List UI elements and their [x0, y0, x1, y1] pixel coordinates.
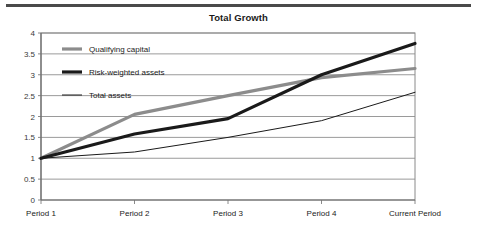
- y-tick-label: 2: [31, 113, 36, 122]
- y-tick-label: 1: [31, 154, 36, 163]
- series-line: [41, 43, 415, 158]
- legend-label: Risk-weighted assets: [89, 68, 165, 77]
- x-axis-tick-marks: [41, 200, 415, 204]
- gridlines-group: [41, 33, 415, 179]
- data-series-group: [41, 43, 415, 158]
- x-tick-label: Period 2: [120, 209, 150, 218]
- y-tick-label: 2.5: [24, 92, 36, 101]
- y-tick-label: 3.5: [24, 50, 36, 59]
- x-tick-label: Period 4: [307, 209, 337, 218]
- y-tick-label: 3: [31, 71, 36, 80]
- x-tick-label: Current Period: [389, 209, 441, 218]
- x-tick-label: Period 3: [213, 209, 243, 218]
- y-tick-label: 0.5: [24, 175, 36, 184]
- x-tick-label: Period 1: [26, 209, 56, 218]
- chart-container: 00.511.522.533.54 Period 1Period 2Period…: [0, 0, 477, 238]
- x-axis-tick-labels: Period 1Period 2Period 3Period 4Current …: [26, 209, 441, 218]
- series-line: [41, 92, 415, 158]
- total-growth-line-chart: 00.511.522.533.54 Period 1Period 2Period…: [0, 0, 477, 238]
- y-tick-label: 0: [31, 196, 36, 205]
- legend: Qualifying capitalRisk-weighted assetsTo…: [62, 45, 165, 100]
- legend-label: Qualifying capital: [89, 45, 150, 54]
- y-tick-label: 1.5: [24, 133, 36, 142]
- y-tick-label: 4: [31, 29, 36, 38]
- legend-label: Total assets: [89, 91, 131, 100]
- y-axis-tick-labels: 00.511.522.533.54: [24, 29, 36, 205]
